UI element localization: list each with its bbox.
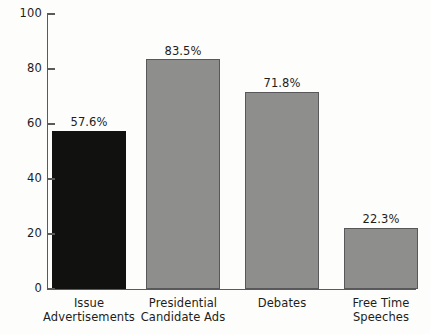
- bar: 57.6%: [52, 131, 126, 289]
- bar: 71.8%: [245, 92, 319, 289]
- plot-area: 020406080100 57.6%83.5%71.8%22.3% IssueA…: [0, 0, 430, 334]
- x-axis-category-label: Debates: [228, 296, 336, 310]
- y-axis-tick-label: 0: [4, 283, 42, 295]
- y-axis-tick-mark: [47, 13, 55, 14]
- y-axis-tick-label: 60: [4, 118, 42, 130]
- bar-value-label: 57.6%: [70, 117, 107, 129]
- bar-value-label: 71.8%: [263, 78, 300, 90]
- x-axis-category-label-line: Advertisements: [35, 310, 143, 324]
- y-axis-line: [47, 14, 48, 290]
- y-axis-tick-label: 20: [4, 228, 42, 240]
- x-axis-category-label: PresidentialCandidate Ads: [129, 296, 237, 324]
- y-axis-tick-label: 80: [4, 63, 42, 75]
- x-axis-category-label-line: Issue: [35, 296, 143, 310]
- bar-value-label: 22.3%: [362, 214, 399, 226]
- x-axis-category-label-line: Candidate Ads: [129, 310, 237, 324]
- x-axis-category-label-line: Debates: [228, 296, 336, 310]
- y-axis-tick-label: 100: [4, 8, 42, 20]
- y-axis-tick-mark: [47, 178, 55, 179]
- y-axis-tick-mark: [47, 288, 55, 289]
- y-axis-tick-mark: [47, 233, 55, 234]
- x-axis-category-label-line: Speeches: [327, 310, 430, 324]
- y-axis-tick-mark: [47, 68, 55, 69]
- x-axis-category-label: Free TimeSpeeches: [327, 296, 430, 324]
- bar: 22.3%: [344, 228, 418, 289]
- x-axis-category-label-line: Free Time: [327, 296, 430, 310]
- y-axis-tick-mark: [47, 123, 55, 124]
- y-axis-tick-label: 40: [4, 173, 42, 185]
- bar: 83.5%: [146, 59, 220, 289]
- bar-chart: 020406080100 57.6%83.5%71.8%22.3% IssueA…: [0, 0, 430, 334]
- x-axis-category-label: IssueAdvertisements: [35, 296, 143, 324]
- x-axis-category-label-line: Presidential: [129, 296, 237, 310]
- bar-value-label: 83.5%: [164, 46, 201, 58]
